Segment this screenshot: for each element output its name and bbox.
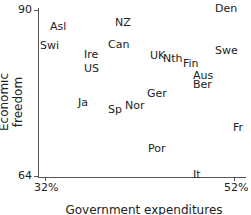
point-label: Den: [215, 3, 237, 15]
y-tick-label-90: 90: [18, 3, 32, 16]
y-tick-90: [34, 10, 38, 11]
y-axis-title: Economic freedom: [0, 47, 25, 157]
x-tick-label-52: 52%: [224, 181, 248, 194]
x-axis-title: Government expenditures: [40, 203, 248, 215]
point-label: Ber: [193, 79, 212, 91]
point-label: Sp: [108, 104, 122, 116]
point-label: Fr: [233, 122, 243, 134]
point-label: Nor: [125, 100, 144, 112]
y-tick-label-64: 64: [18, 169, 32, 182]
point-label: Swi: [40, 40, 59, 52]
point-label: Asl: [50, 21, 66, 33]
point-label: NZ: [115, 17, 131, 29]
point-label: Ger: [147, 88, 167, 100]
point-label: Swe: [215, 45, 238, 57]
x-axis: [38, 177, 246, 178]
y-axis: [38, 8, 39, 177]
point-label: Por: [148, 143, 166, 155]
x-tick-label-32: 32%: [34, 181, 58, 194]
point-label: Nth: [163, 53, 183, 65]
point-label: Ire: [84, 49, 98, 61]
y-tick-64: [34, 176, 38, 177]
point-label: US: [84, 63, 99, 75]
point-label: Can: [108, 39, 129, 51]
point-label: It: [193, 169, 201, 181]
point-label: Ja: [78, 97, 88, 109]
